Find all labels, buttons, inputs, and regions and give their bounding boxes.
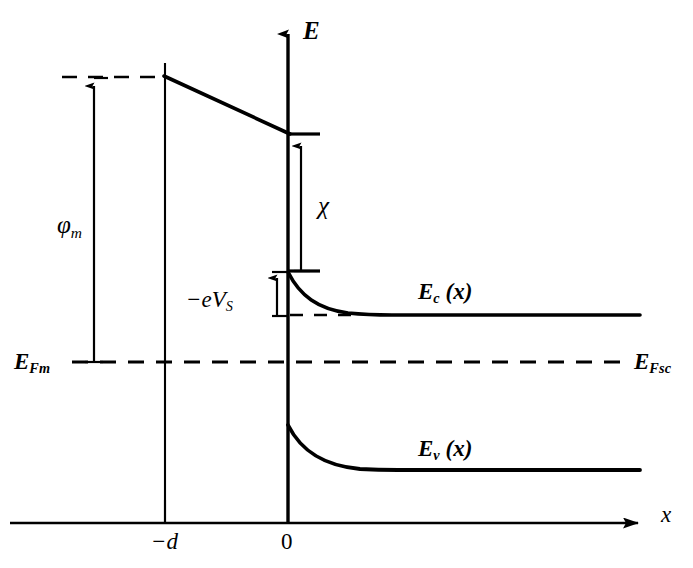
x-tick-label-zero: 0 [281,530,293,553]
energy-axis-label: E [303,18,320,43]
fermi-level-metal-label: EFm [14,350,50,373]
eVs-symbol: V [212,287,226,312]
position-axis-label: x [661,503,671,526]
surface-band-bending-label: −eVS [186,288,233,311]
chi-measure-group [294,146,310,271]
eVs-prefix: −e [186,287,212,312]
phi-subscript: m [71,224,82,241]
axis-group [10,34,638,523]
Ev-subscript: v [433,447,439,463]
EFm-subscript: Fm [29,360,50,376]
phi-symbol: φ [57,211,71,238]
metal-work-function-label: φm [57,212,82,237]
EFsc-subscript: Fsc [649,360,671,376]
Ec-subscript: c [433,290,439,306]
eVs-subscript: S [226,298,233,314]
band-diagram-figure: E φm χ −eVS Ec (x) Ev (x) EFm EFsc −d 0 … [0,0,693,568]
fermi-level-semiconductor-label: EFsc [634,350,671,373]
EFsc-symbol: E [634,349,649,374]
conduction-band-label: Ec (x) [418,280,472,303]
Ec-arg: (x) [440,279,473,304]
Ev-symbol: E [418,436,433,461]
Ev-arg: (x) [440,436,473,461]
eVs-measure-group [272,272,288,316]
x-tick-label-minus-d: −d [151,530,178,553]
band-diagram-canvas [0,0,693,568]
vacuum-level-sloped-line [164,76,290,134]
EFm-symbol: E [14,349,29,374]
vacuum-level-group [62,76,320,134]
valence-band-label: Ev (x) [418,437,472,460]
Ec-symbol: E [418,279,433,304]
electron-affinity-label: χ [318,193,329,218]
phi-m-measure-group [85,78,108,362]
